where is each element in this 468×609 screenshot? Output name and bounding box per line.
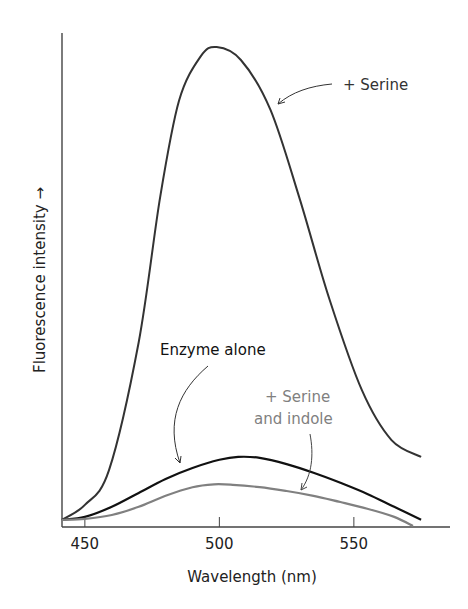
x-ticks: 450500550 — [71, 517, 369, 553]
x-tick-label: 450 — [71, 535, 100, 553]
serine-curve — [62, 47, 421, 520]
y-axis-title: Fluorescence intensity → — [31, 187, 49, 373]
serine-label: + Serine — [343, 76, 408, 94]
x-tick-label: 550 — [340, 535, 369, 553]
x-tick-label: 500 — [205, 535, 234, 553]
x-axis-title: Wavelength (nm) — [187, 568, 317, 586]
serine-arrow-icon — [278, 84, 332, 104]
enzyme-alone-curve — [62, 457, 421, 520]
serine-indole-label-line2: and indole — [254, 410, 333, 428]
enzyme-alone-label: Enzyme alone — [160, 341, 266, 359]
serine-indole-label-line1: + Serine — [265, 388, 330, 406]
enzyme-arrow-icon — [174, 366, 208, 463]
fluorescence-chart: 450500550 + Serine Enzyme alone + Serine… — [0, 0, 468, 609]
indole-arrow-icon — [301, 434, 312, 490]
